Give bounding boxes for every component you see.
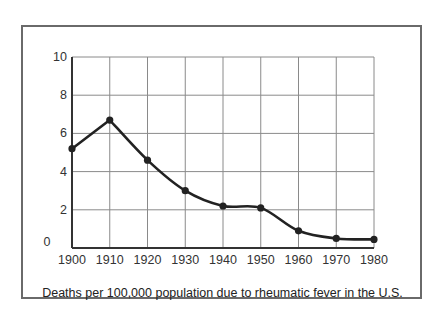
y-tick-label: 0 <box>44 235 51 249</box>
data-point <box>370 236 377 243</box>
data-point <box>333 235 340 242</box>
data-point <box>219 202 226 209</box>
y-tick-label: 10 <box>53 50 67 64</box>
x-tick-label: 1920 <box>134 253 162 267</box>
y-tick-label: 6 <box>60 126 67 140</box>
x-tick-label: 1960 <box>285 253 313 267</box>
x-tick-label: 1970 <box>322 253 350 267</box>
data-point <box>295 227 302 234</box>
grid-lines <box>72 57 374 248</box>
x-tick-labels: 190019101920193019401950196019701980 <box>58 253 388 267</box>
data-point <box>106 116 113 123</box>
data-point <box>182 187 189 194</box>
data-point <box>257 204 264 211</box>
y-tick-label: 2 <box>60 203 67 217</box>
line-chart: 0246810 19001910192019301940195019601970… <box>0 0 445 332</box>
data-point <box>68 145 75 152</box>
y-tick-label: 8 <box>60 88 67 102</box>
y-tick-labels: 0246810 <box>44 50 68 249</box>
x-tick-label: 1980 <box>360 253 388 267</box>
x-tick-label: 1900 <box>58 253 86 267</box>
x-tick-label: 1930 <box>171 253 199 267</box>
chart-caption: Deaths per 100,000 population due to rhe… <box>0 286 445 300</box>
x-tick-label: 1940 <box>209 253 237 267</box>
x-tick-label: 1910 <box>96 253 124 267</box>
x-tick-label: 1950 <box>247 253 275 267</box>
y-tick-label: 4 <box>60 165 67 179</box>
data-point <box>144 157 151 164</box>
